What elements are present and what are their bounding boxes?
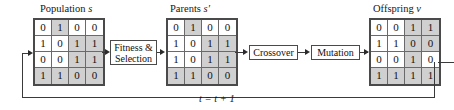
matrix-cell: 1: [185, 20, 202, 36]
matrix-row: 1100: [168, 68, 236, 84]
matrix-cell: 1: [405, 68, 422, 84]
matrix-cell: 1: [371, 36, 388, 52]
matrix-cell: 1: [405, 20, 422, 36]
matrix-cell: 0: [86, 20, 103, 36]
matrix-cell: 0: [69, 20, 86, 36]
matrix-cell: 0: [69, 68, 86, 84]
matrix-cell: 1: [52, 68, 69, 84]
matrix-cell: 0: [202, 20, 219, 36]
matrix-cell: 1: [422, 68, 439, 84]
arrowhead-feedback-population: [28, 50, 33, 56]
fitness-selection-line2: Selection: [115, 53, 152, 64]
matrix-row: 0011: [371, 20, 439, 36]
matrix-cell: 1: [168, 68, 185, 84]
crossover-label: Crossover: [253, 47, 294, 58]
matrix-cell: 0: [388, 20, 405, 36]
matrix-cell: 1: [202, 52, 219, 68]
arrowhead-parents-crossover: [243, 49, 248, 55]
matrix-cell: 0: [35, 52, 52, 68]
matrix-row: 1011: [168, 52, 236, 68]
matrix-cell: 1: [35, 36, 52, 52]
matrix-cell: 1: [388, 36, 405, 52]
offspring-caption-text: Offspring: [373, 3, 414, 14]
arrowhead-mutation-offspring: [364, 49, 369, 55]
matrix-cell: 0: [185, 36, 202, 52]
matrix-cell: 0: [52, 36, 69, 52]
matrix-cell: 0: [371, 52, 388, 68]
feedback-loop-right-segment: [434, 62, 435, 98]
population-caption-text: Population: [40, 3, 86, 14]
matrix-row: 1011: [35, 36, 103, 52]
matrix-cell: 0: [52, 52, 69, 68]
matrix-row: 1011: [168, 36, 236, 52]
arrowhead-fitness-parents: [160, 49, 165, 55]
offspring-caption: Offspring v: [373, 3, 421, 14]
loop-counter-label: t = t + 1: [199, 93, 235, 104]
matrix-cell: 1: [219, 36, 236, 52]
matrix-cell: 1: [168, 52, 185, 68]
arrowhead-population-fitness: [105, 49, 110, 55]
matrix-row: 1100: [35, 68, 103, 84]
feedback-loop-top-segment: [438, 62, 454, 63]
matrix-cell: 0: [219, 20, 236, 36]
parents-matrix: 0100101110111100: [166, 18, 238, 86]
matrix-cell: 0: [422, 52, 439, 68]
matrix-cell: 0: [405, 36, 422, 52]
matrix-cell: 1: [86, 52, 103, 68]
parents-caption-text: Parents: [170, 3, 201, 14]
offspring-matrix: 0011110000101111: [369, 18, 441, 86]
matrix-cell: 0: [185, 52, 202, 68]
matrix-cell: 1: [219, 52, 236, 68]
matrix-cell: 0: [168, 20, 185, 36]
matrix-cell: 1: [69, 36, 86, 52]
matrix-row: 0100: [168, 20, 236, 36]
population-caption: Population s: [40, 3, 92, 14]
mutation-label: Mutation: [317, 47, 354, 58]
offspring-caption-symbol: v: [416, 3, 421, 14]
matrix-cell: 1: [185, 68, 202, 84]
matrix-cell: 1: [69, 52, 86, 68]
matrix-cell: 0: [219, 68, 236, 84]
matrix-cell: 0: [371, 20, 388, 36]
mutation-box: Mutation: [311, 45, 360, 60]
population-caption-symbol: s: [88, 3, 92, 14]
matrix-cell: 1: [168, 36, 185, 52]
fitness-selection-box: Fitness & Selection: [110, 40, 157, 65]
matrix-cell: 0: [35, 20, 52, 36]
matrix-cell: 0: [388, 52, 405, 68]
crossover-box: Crossover: [249, 45, 298, 60]
genetic-algorithm-diagram: Population s 0100101100111100 Parents s′…: [0, 0, 454, 110]
matrix-row: 0100: [35, 20, 103, 36]
matrix-cell: 0: [86, 68, 103, 84]
matrix-cell: 1: [202, 36, 219, 52]
matrix-cell: 1: [35, 68, 52, 84]
parents-caption: Parents s′: [170, 3, 210, 14]
matrix-cell: 1: [371, 68, 388, 84]
feedback-loop-left-segment: [22, 53, 23, 98]
matrix-cell: 1: [405, 52, 422, 68]
arrowhead-crossover-mutation: [305, 49, 310, 55]
matrix-cell: 1: [388, 68, 405, 84]
matrix-cell: 1: [86, 36, 103, 52]
parents-caption-symbol: s′: [204, 3, 210, 14]
matrix-cell: 0: [422, 36, 439, 52]
matrix-cell: 1: [52, 20, 69, 36]
matrix-row: 0011: [35, 52, 103, 68]
fitness-selection-line1: Fitness &: [114, 42, 153, 53]
matrix-row: 0010: [371, 52, 439, 68]
population-matrix: 0100101100111100: [33, 18, 105, 86]
matrix-row: 1111: [371, 68, 439, 84]
matrix-cell: 1: [422, 20, 439, 36]
matrix-cell: 0: [202, 68, 219, 84]
matrix-row: 1100: [371, 36, 439, 52]
